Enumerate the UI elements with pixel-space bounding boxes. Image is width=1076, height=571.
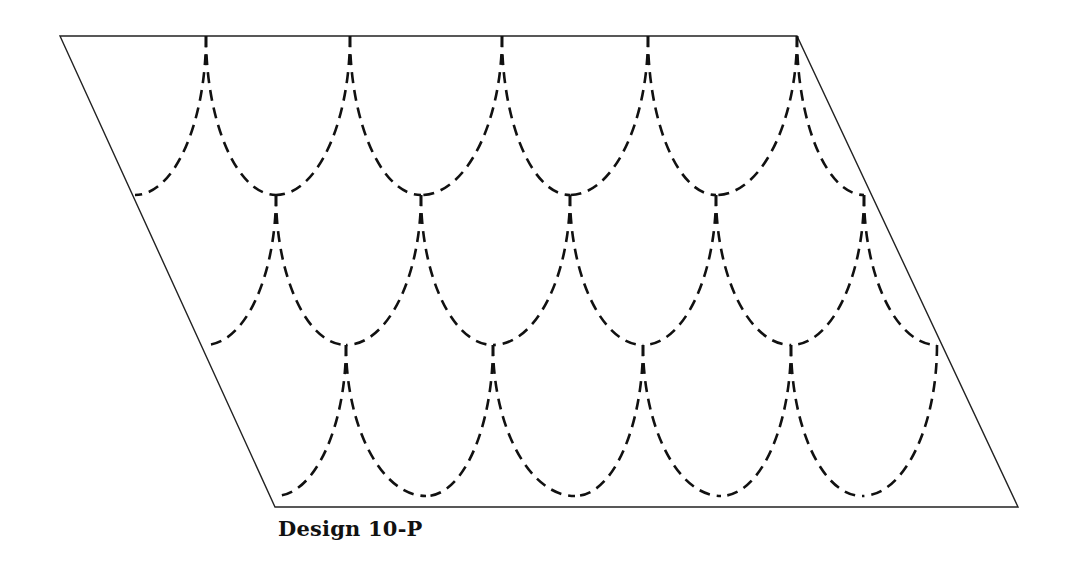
scale-arc <box>275 345 346 496</box>
scale-arc <box>502 36 570 195</box>
scale-arc <box>346 195 421 345</box>
scale-arc <box>575 345 643 496</box>
scale-arc <box>421 195 493 345</box>
scale-arc <box>493 345 575 496</box>
scale-arc <box>648 36 716 195</box>
scale-arc <box>862 345 937 496</box>
scale-arc <box>493 195 570 345</box>
scale-arc <box>721 345 791 496</box>
design-caption: Design 10-P <box>278 516 423 541</box>
scale-arc <box>276 195 346 345</box>
scale-arc <box>797 36 864 195</box>
scale-arcs <box>135 36 937 496</box>
scale-arc <box>350 36 421 195</box>
scale-arc <box>421 36 502 195</box>
scale-arc <box>276 36 350 195</box>
scale-arc <box>791 345 862 496</box>
scale-arc <box>643 195 716 345</box>
scale-arc <box>135 36 206 195</box>
scale-arc <box>716 36 797 195</box>
scale-pattern-diagram <box>0 0 1076 571</box>
scale-arc <box>570 195 643 345</box>
scale-arc <box>206 36 276 195</box>
scale-arc <box>205 195 276 345</box>
scale-arc <box>426 345 493 496</box>
scale-arc <box>716 195 791 345</box>
scale-arc <box>791 195 864 345</box>
scale-arc <box>346 345 426 496</box>
scale-arc <box>864 195 937 345</box>
scale-arc <box>643 345 721 496</box>
scale-arc <box>570 36 648 195</box>
